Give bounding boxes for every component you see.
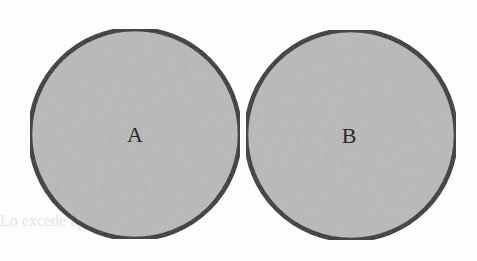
set-diagram: Lo excede apropiadi uas re A B <box>0 0 477 261</box>
circle-b-label: B <box>342 123 357 148</box>
circle-a-label: A <box>127 122 143 147</box>
circle-a-group: A <box>30 29 240 239</box>
circle-b-group: B <box>246 30 456 240</box>
diagram-canvas: Lo excede apropiadi uas re A B <box>0 0 477 261</box>
